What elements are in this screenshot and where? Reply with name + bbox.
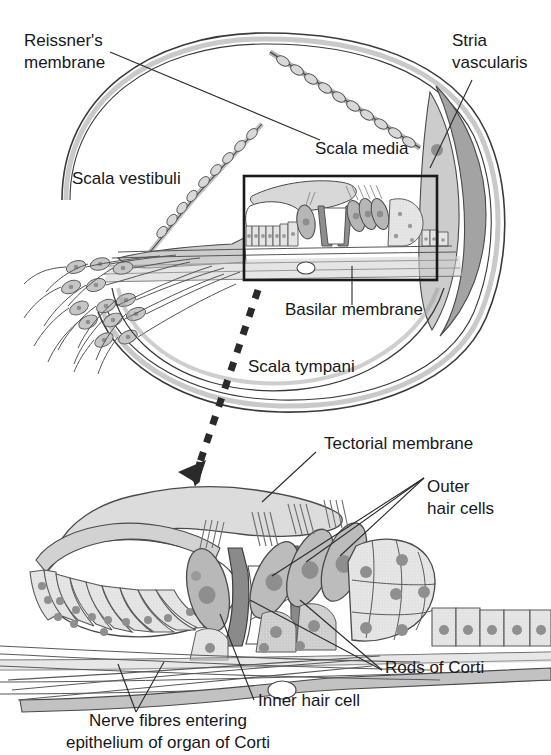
label-stria-vascularis-line1: Stria bbox=[452, 31, 488, 50]
label-scala-vestibuli: Scala vestibuli bbox=[72, 169, 181, 188]
label-scala-media: Scala media bbox=[315, 139, 409, 158]
spiral-vessel-lumen bbox=[297, 262, 315, 274]
label-scala-tympani: Scala tympani bbox=[248, 357, 355, 376]
label-reissners-membrane-line1: Reissner's bbox=[24, 31, 103, 50]
label-basilar-membrane: Basilar membrane bbox=[285, 300, 423, 319]
supporting-cell-nucleus bbox=[205, 643, 215, 653]
label-nerve-fibres-line2: epithelium of organ of Corti bbox=[66, 733, 270, 752]
label-rods-of-corti: Rods of Corti bbox=[385, 658, 484, 677]
label-nerve-fibres-line1: Nerve fibres entering bbox=[89, 711, 247, 730]
label-outer-hair-cells-line1: Outer bbox=[427, 477, 470, 496]
label-outer-hair-cells-line2: hair cells bbox=[427, 499, 494, 518]
label-inner-hair-cell: Inner hair cell bbox=[258, 691, 360, 710]
cochlea-diagram-svg: Reissner's membrane Stria vascularis Sca… bbox=[0, 0, 551, 755]
label-reissners-membrane-line2: membrane bbox=[24, 53, 105, 72]
label-stria-vascularis-line2: vascularis bbox=[452, 53, 528, 72]
cochlea-figure: Reissner's membrane Stria vascularis Sca… bbox=[0, 0, 551, 755]
label-tectorial-membrane: Tectorial membrane bbox=[324, 434, 473, 453]
